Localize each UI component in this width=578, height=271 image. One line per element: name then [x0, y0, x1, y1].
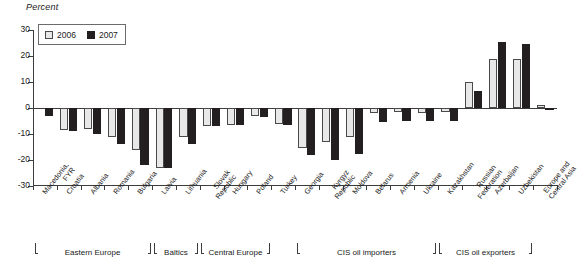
- region-rule-left: [35, 253, 38, 254]
- region-rule-left: [439, 253, 442, 254]
- region-rule-right: [267, 253, 270, 254]
- bar-2006-belarus: [370, 108, 378, 113]
- y-tick-label: 30: [21, 24, 30, 34]
- bar-2007-belarus: [379, 108, 387, 122]
- y-tick-label: -20: [18, 154, 30, 164]
- y-tick-label: 20: [21, 50, 30, 60]
- bar-2007-poland: [260, 108, 268, 117]
- bar-2006-kyrgyz-republic: [322, 108, 330, 142]
- bar-2006-croatia: [60, 108, 68, 130]
- bar-2007-ukraine: [426, 108, 434, 121]
- bar-2006-bulgaria: [132, 108, 140, 150]
- region-central-europe: Central Europe: [201, 243, 269, 265]
- region-rule-right: [433, 253, 436, 254]
- bar-2007-hungary: [236, 108, 244, 125]
- bar-2006-europe-and-central-asia: [537, 105, 545, 108]
- x-tick-mark: [81, 185, 82, 190]
- region-label: Central Europe: [201, 248, 269, 257]
- region-label: CIS oil importers: [297, 248, 437, 257]
- plot-area: 3020100-10-20-30: [33, 30, 557, 186]
- region-cis-oil-exporters: CIS oil exporters: [439, 243, 531, 265]
- x-tick-mark: [247, 185, 248, 190]
- y-axis-title: Percent: [26, 2, 58, 12]
- bar-2007-kazakhstan: [450, 108, 458, 121]
- bar-2007-georgia: [307, 108, 315, 155]
- x-axis-category-labels: Macedonia,FYRCroatiaAlbaniaRomaniaBulgar…: [33, 191, 557, 251]
- bar-2007-bulgaria: [140, 108, 148, 165]
- x-tick-mark: [509, 185, 510, 190]
- bar-2006-slovak-republic: [203, 108, 211, 126]
- region-rule-left: [201, 253, 204, 254]
- bar-2007-croatia: [69, 108, 77, 131]
- bar-2006-romania: [108, 108, 116, 137]
- x-tick-mark: [128, 185, 129, 190]
- region-baltics: Baltics: [154, 243, 199, 265]
- bar-2007-latvia: [164, 108, 172, 168]
- bar-2006-azerbaijan: [489, 59, 497, 108]
- bar-2007-slovak-republic: [212, 108, 220, 126]
- x-tick-mark: [390, 185, 391, 190]
- x-tick-mark: [533, 185, 534, 190]
- bar-2006-ukraine: [418, 108, 426, 113]
- bar-2007-lithuania: [188, 108, 196, 144]
- bar-2007-europe-and-central-asia: [545, 108, 553, 110]
- x-tick-mark: [104, 185, 105, 190]
- region-brackets: Eastern EuropeBalticsCentral EuropeCIS o…: [33, 243, 557, 269]
- region-eastern-europe: Eastern Europe: [35, 243, 151, 265]
- x-tick-mark: [200, 185, 201, 190]
- region-label: Eastern Europe: [35, 248, 151, 257]
- x-tick-mark: [271, 185, 272, 190]
- region-rule-left: [154, 253, 157, 254]
- legend-item-2006: 2006: [45, 30, 76, 40]
- region-label: Baltics: [154, 248, 199, 257]
- bar-2007-armenia: [402, 108, 410, 121]
- x-tick-mark: [176, 185, 177, 190]
- x-tick-mark: [33, 185, 34, 190]
- region-rule-right: [195, 253, 198, 254]
- bar-2006-albania: [84, 108, 92, 129]
- bar-2007-albania: [93, 108, 101, 134]
- bar-2006-kazakhstan: [441, 108, 449, 112]
- legend-label-2006: 2006: [57, 30, 76, 40]
- bar-2006-hungary: [227, 108, 235, 125]
- x-tick-mark: [152, 185, 153, 190]
- x-tick-mark: [366, 185, 367, 190]
- region-label: CIS oil exporters: [439, 248, 531, 257]
- bar-2006-russian-federation: [465, 82, 473, 108]
- x-tick-mark: [438, 185, 439, 190]
- x-tick-mark: [414, 185, 415, 190]
- legend-label-2007: 2007: [99, 30, 118, 40]
- legend-swatch-2006: [45, 31, 53, 39]
- bar-2007-turkey: [283, 108, 291, 125]
- y-tick-label: 10: [21, 76, 30, 86]
- bar-series-group: [33, 30, 557, 186]
- y-tick-label: -10: [18, 128, 30, 138]
- bar-2007-romania: [117, 108, 125, 144]
- bar-2006-latvia: [156, 108, 164, 168]
- bar-2007-moldova: [355, 108, 363, 154]
- bar-2007-macedonia-fyr: [45, 108, 53, 116]
- legend-swatch-2007: [87, 31, 95, 39]
- x-tick-mark: [295, 185, 296, 190]
- bar-2006-uzbekistan: [513, 59, 521, 108]
- x-tick-mark: [319, 185, 320, 190]
- legend-item-2007: 2007: [87, 30, 118, 40]
- bar-2007-uzbekistan: [522, 44, 530, 108]
- y-tick-label: 0: [25, 102, 30, 112]
- bar-2006-armenia: [394, 108, 402, 112]
- bar-2007-azerbaijan: [498, 42, 506, 108]
- region-rule-right: [529, 253, 532, 254]
- x-tick-mark: [462, 185, 463, 190]
- bar-2006-moldova: [346, 108, 354, 137]
- y-tick-label: -30: [18, 180, 30, 190]
- region-rule-right: [148, 253, 151, 254]
- bar-2007-russian-federation: [474, 91, 482, 108]
- chart-legend: 2006 2007: [38, 24, 126, 45]
- bar-2006-lithuania: [179, 108, 187, 137]
- bar-2006-turkey: [275, 108, 283, 124]
- bar-2007-kyrgyz-republic: [331, 108, 339, 160]
- bar-2006-poland: [251, 108, 259, 116]
- bar-2006-georgia: [298, 108, 306, 148]
- region-rule-left: [297, 253, 300, 254]
